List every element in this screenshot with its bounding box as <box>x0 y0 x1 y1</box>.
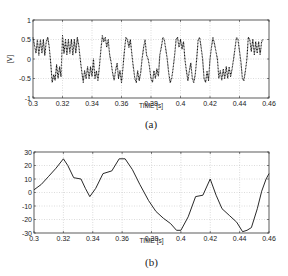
x-tick-label: 0.32 <box>57 235 71 242</box>
y-tick-label: 30 <box>24 149 32 156</box>
y-tick-label: 20 <box>24 162 32 169</box>
x-tick-label: 0.42 <box>203 100 217 107</box>
x-tick-label: 0.36 <box>115 100 129 107</box>
x-tick-label: 0.4 <box>176 235 186 242</box>
x-tick-label: 0.46 <box>262 100 276 107</box>
subfigure-caption: (a) <box>145 118 158 131</box>
y-tick-label: 0.5 <box>21 36 31 43</box>
y-tick-label: 0 <box>27 56 31 63</box>
x-tick-label: 0.34 <box>85 100 99 107</box>
x-tick-label: 0.34 <box>86 235 100 242</box>
y-tick-label: -20 <box>22 216 32 223</box>
x-axis-label: TIME [s] <box>139 102 163 110</box>
x-tick-label: 0.4 <box>176 100 186 107</box>
y-tick-label: 1 <box>27 17 31 24</box>
x-tick-label: 0.36 <box>115 235 129 242</box>
y-tick-label: -1 <box>25 95 31 102</box>
y-tick-label: -30 <box>22 230 32 237</box>
x-tick-label: 0.44 <box>233 235 247 242</box>
x-tick-label: 0.32 <box>56 100 70 107</box>
x-axis-label: TIME [s] <box>139 237 163 245</box>
x-tick-label: 0.42 <box>203 235 217 242</box>
plot-a: 0.30.320.340.360.380.40.420.440.4610.50-… <box>6 17 276 132</box>
y-tick-label: -10 <box>22 203 32 210</box>
subfigure-caption: (b) <box>145 256 158 269</box>
chart-figure: 0.30.320.340.360.380.40.420.440.4610.50-… <box>0 0 288 276</box>
y-tick-label: 10 <box>24 176 32 183</box>
y-tick-label: 0 <box>28 189 32 196</box>
x-tick-label: 0.46 <box>262 235 276 242</box>
y-axis-label: [V] <box>6 55 14 63</box>
x-tick-label: 0.44 <box>233 100 247 107</box>
plot-b: 0.30.320.340.360.380.40.420.440.46302010… <box>22 149 276 270</box>
y-tick-label: -0.5 <box>19 75 31 82</box>
